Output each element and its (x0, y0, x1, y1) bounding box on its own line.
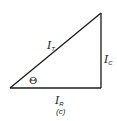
angle-theta-label: Θ (29, 76, 37, 86)
figure-caption: (c) (56, 108, 65, 116)
label-ir: IR (55, 91, 64, 107)
label-it-sub: T (51, 46, 55, 52)
label-ic-sub: C (108, 60, 112, 66)
label-ic: IC (104, 50, 113, 66)
hypotenuse-line-it (10, 13, 101, 88)
label-it: IT (47, 36, 55, 52)
